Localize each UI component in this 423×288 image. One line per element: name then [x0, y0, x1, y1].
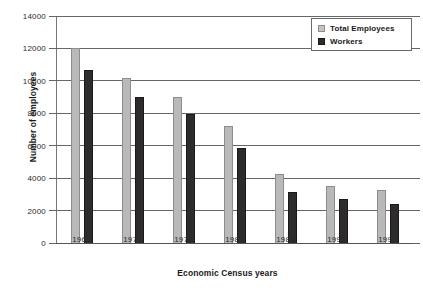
gridline — [56, 16, 413, 17]
bar-chart: Number of employees 02000400060008000100… — [0, 0, 423, 288]
y-axis-tick — [49, 80, 56, 81]
y-axis-tick-right — [413, 48, 420, 49]
y-axis-tick — [49, 16, 56, 17]
y-axis-tick — [49, 145, 56, 146]
legend-swatch-workers-icon — [318, 38, 325, 45]
bar-1977-total-employees — [173, 97, 182, 243]
y-axis-tick-right — [413, 145, 420, 146]
bar-1982-workers — [237, 148, 246, 243]
bar-1987-total-employees — [275, 174, 284, 243]
x-axis-tick-label-1967: 1967 — [72, 235, 91, 244]
bar-1972-total-employees — [122, 78, 131, 243]
y-axis-tick-right — [413, 113, 420, 114]
y-axis-tick-right — [413, 16, 420, 17]
y-axis-tick — [49, 178, 56, 179]
bar-1977-workers — [186, 114, 195, 243]
y-axis-tick-label: 4000 — [27, 174, 46, 183]
gridline — [56, 178, 413, 179]
legend-label-workers: Workers — [330, 37, 363, 46]
y-axis-tick — [49, 113, 56, 114]
y-axis-tick-label: 10000 — [23, 76, 46, 85]
bar-1967-workers — [84, 70, 93, 243]
x-axis-tick-label-1982: 1982 — [225, 235, 244, 244]
chart-legend: Total Employees Workers — [311, 18, 412, 51]
bar-1982-total-employees — [224, 126, 233, 243]
gridline — [56, 145, 413, 146]
y-axis-tick — [49, 210, 56, 211]
gridline — [56, 80, 413, 81]
y-axis-tick-label: 2000 — [27, 206, 46, 215]
y-axis-line — [56, 16, 57, 243]
legend-swatch-total-employees-icon — [318, 25, 325, 32]
y-axis-tick-label: 12000 — [23, 44, 46, 53]
x-axis-title: Economic Census years — [40, 268, 415, 278]
gridline — [56, 210, 413, 211]
x-axis-tick-label-1997: 1997 — [378, 235, 397, 244]
y-axis-tick-right — [413, 80, 420, 81]
y-axis-tick-right — [413, 210, 420, 211]
y-axis-tick-label: 14000 — [23, 12, 46, 21]
bar-1967-total-employees — [71, 48, 80, 243]
x-axis-tick-label-1972: 1972 — [123, 235, 142, 244]
y-axis-tick-label: 8000 — [27, 109, 46, 118]
y-axis-tick-right — [413, 178, 420, 179]
gridline — [56, 113, 413, 114]
y-axis-tick-label: 6000 — [27, 141, 46, 150]
x-axis-tick-label-1992: 1992 — [327, 235, 346, 244]
y-axis-tick — [49, 243, 56, 244]
x-axis-tick-label-1977: 1977 — [174, 235, 193, 244]
y-axis-tick-label: 0 — [41, 239, 46, 248]
y-axis-tick — [49, 48, 56, 49]
legend-item-workers: Workers — [318, 35, 411, 48]
x-axis-tick-label-1987: 1987 — [276, 235, 295, 244]
legend-item-total-employees: Total Employees — [318, 22, 411, 35]
bar-1972-workers — [135, 97, 144, 243]
y-axis-tick-right — [413, 243, 420, 244]
legend-label-total-employees: Total Employees — [330, 24, 394, 33]
